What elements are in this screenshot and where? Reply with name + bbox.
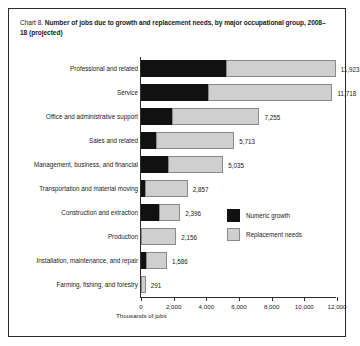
x-axis-tick-mark	[206, 297, 207, 301]
x-axis-tick-mark	[174, 297, 175, 301]
x-axis-tick-label: 6,000	[231, 303, 246, 310]
x-axis-title: Thousands of jobs	[116, 312, 167, 319]
chart-title-text: Number of jobs due to growth and replace…	[20, 19, 326, 36]
x-axis-tick-label: 10,000	[295, 303, 314, 310]
x-axis-ticks: 02,0004,0006,0008,00010,00012,000	[20, 57, 336, 315]
x-axis-tick-mark	[304, 297, 305, 301]
x-axis-tick-label: 4,000	[199, 303, 214, 310]
plot-area: Professional and related11,923Service11,…	[20, 57, 336, 297]
x-axis-tick-label: 2,000	[166, 303, 181, 310]
x-axis-tick-mark	[272, 297, 273, 301]
x-axis-tick-mark	[141, 297, 142, 301]
chart-title: Chart 8. Number of jobs due to growth an…	[20, 18, 332, 37]
bar-value-label: 11,718	[337, 90, 356, 97]
x-axis-tick-label: 12,000	[328, 303, 347, 310]
legend-label: Numeric growth	[246, 212, 290, 219]
chart-number-label: Chart 8.	[20, 19, 43, 26]
chart-legend: Numeric growthReplacement needs	[227, 209, 327, 247]
legend-swatch-replacement-needs	[227, 228, 240, 241]
legend-entry: Numeric growth	[227, 209, 327, 228]
x-axis-tick-mark	[337, 297, 338, 301]
chart-container: Chart 8. Number of jobs due to growth an…	[8, 8, 346, 337]
legend-swatch-numeric-growth	[227, 209, 240, 222]
bar-value-label: 11,923	[341, 66, 360, 73]
legend-label: Replacement needs	[246, 231, 302, 238]
x-axis-tick-mark	[239, 297, 240, 301]
legend-entry: Replacement needs	[227, 228, 327, 247]
x-axis-tick-label: 0	[139, 303, 142, 310]
x-axis-tick-label: 8,000	[264, 303, 279, 310]
